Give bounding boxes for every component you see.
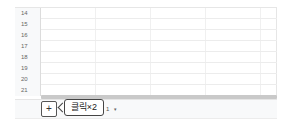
table-row[interactable]: 20 [15,74,277,85]
row-header[interactable]: 18 [15,52,41,63]
table-row[interactable]: 14 [15,8,277,19]
sheet-tab-label: 1 [106,106,109,112]
chevron-down-icon[interactable]: ▾ [114,106,117,112]
row-header[interactable]: 14 [15,8,41,19]
table-row[interactable]: 16 [15,30,277,41]
table-row[interactable]: 18 [15,52,277,63]
row-header[interactable]: 21 [15,85,41,96]
row-header[interactable]: 15 [15,19,41,30]
click-annotation-callout: 클릭×2 [64,99,104,116]
row-header[interactable]: 16 [15,30,41,41]
row-header[interactable]: 19 [15,63,41,74]
add-sheet-button[interactable]: + [41,101,57,117]
table-row[interactable]: 17 [15,41,277,52]
spreadsheet-grid: 14 15 16 17 18 19 20 21 [15,7,277,95]
row-header[interactable]: 17 [15,41,41,52]
row-header[interactable]: 20 [15,74,41,85]
table-row[interactable]: 19 [15,63,277,74]
table-row[interactable]: 15 [15,19,277,30]
